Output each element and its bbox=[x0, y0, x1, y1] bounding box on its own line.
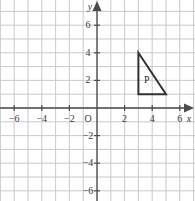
y-axis-arrow bbox=[93, 1, 102, 11]
y-tick-label: −6 bbox=[83, 186, 94, 196]
y-tick-label: 4 bbox=[86, 48, 91, 58]
shape-label-p: P bbox=[144, 75, 150, 85]
x-tick-label: 2 bbox=[122, 114, 127, 124]
x-tick-label: −4 bbox=[36, 114, 47, 124]
y-tick-label: 2 bbox=[86, 75, 91, 85]
x-tick-label: −2 bbox=[64, 114, 75, 124]
y-axis-label: y bbox=[88, 2, 92, 12]
x-tick-label: −6 bbox=[9, 114, 20, 124]
y-tick-label: −4 bbox=[83, 158, 94, 168]
x-axis-label: x bbox=[187, 114, 191, 124]
axes-and-shapes bbox=[0, 0, 195, 201]
origin-label: O bbox=[84, 114, 91, 124]
x-tick-label: 6 bbox=[177, 114, 182, 124]
x-axis-arrow bbox=[184, 104, 194, 113]
shape-p bbox=[138, 53, 166, 94]
y-tick-label: −2 bbox=[83, 131, 94, 141]
y-tick-label: 6 bbox=[86, 20, 91, 30]
coordinate-grid-figure: −6−4−2246642−2−4−6OxyP bbox=[0, 0, 195, 201]
x-tick-label: 4 bbox=[150, 114, 155, 124]
